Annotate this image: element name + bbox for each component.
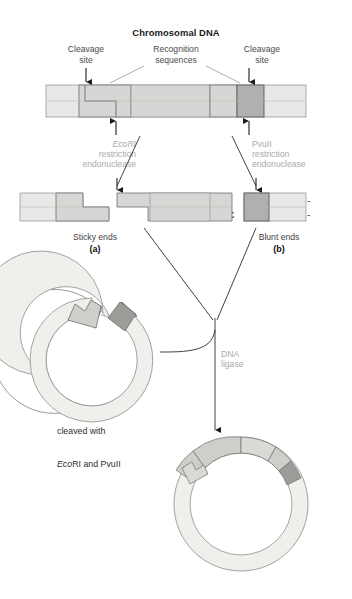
recombinant-plasmid [174, 437, 308, 571]
fragment-bar-left [20, 193, 109, 221]
fragment-bar-middle [117, 193, 232, 221]
cleaved-plasmid-vector [0, 251, 153, 422]
ligation-converging-lines [144, 228, 256, 430]
chromosomal-dna-bar [46, 85, 306, 117]
figure-canvas: Chromosomal DNA Cleavage site Recognitio… [0, 0, 352, 599]
enzyme-action-lines [117, 136, 256, 186]
diagram-vector-layer [0, 0, 352, 599]
fragment-bar-right [244, 193, 306, 221]
recognition-leader-lines [110, 66, 240, 83]
